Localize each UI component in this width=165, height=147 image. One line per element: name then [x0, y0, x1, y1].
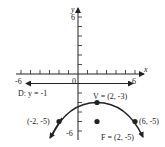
x-tick-6: 6	[132, 77, 136, 86]
origin-label: 0	[72, 77, 76, 86]
directrix-label: D: y = -1	[18, 89, 47, 98]
focus-point	[94, 119, 99, 124]
y-tick-6: 6	[71, 13, 75, 22]
x-axis	[16, 70, 144, 74]
point-neg2-neg5	[56, 119, 61, 124]
y-tick-neg6: -6	[66, 129, 73, 138]
point-6-neg5	[132, 119, 137, 124]
vertex-label: V = (2, -3)	[93, 92, 127, 101]
point-right-label: (6, -5)	[139, 117, 159, 126]
x-axis-label: x	[143, 65, 148, 74]
parabola-graph: x y 6 -6 0 6 -6 D: y = -1 V = (2, -3) F …	[0, 0, 165, 147]
focus-label: F = (2, -5)	[101, 133, 134, 142]
x-tick-neg6: -6	[15, 77, 22, 86]
point-left-label: (-2, -5)	[27, 117, 50, 126]
